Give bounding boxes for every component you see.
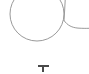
- tail-curve-shape: [64, 21, 89, 29]
- vector-drawing-layer: [0, 0, 89, 74]
- vertical-connector-stroke-shape: [64, 0, 65, 21]
- canvas-root[interactable]: [0, 0, 89, 74]
- circle-outline-shape: [10, 0, 64, 41]
- text-caret[interactable]: [38, 65, 49, 72]
- text-caret-stem: [42, 66, 44, 72]
